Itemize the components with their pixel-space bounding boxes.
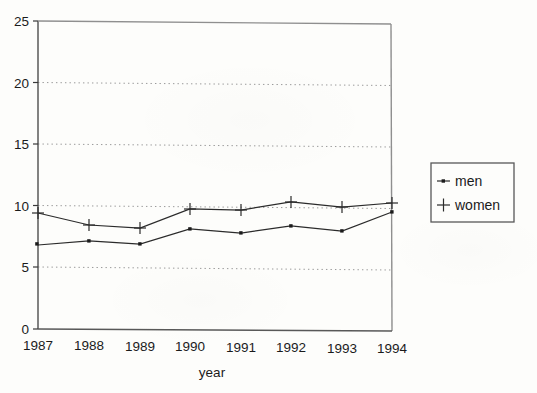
y-tick-label-0: 0	[21, 322, 29, 337]
x-tick-label-1989: 1989	[125, 339, 155, 354]
y-axis-tick-labels: 25 20 15 10 5 0	[14, 14, 29, 337]
legend-label-men: men	[455, 173, 482, 189]
marker-men-1988	[87, 239, 90, 242]
marker-men-1993	[340, 229, 343, 232]
x-axis-tick-labels: 1987 1988 1989 1990 1991 1992 1993 1994	[23, 338, 408, 356]
marker-men-1987	[35, 242, 38, 245]
marker-men-1990	[188, 227, 191, 230]
legend-box	[431, 163, 514, 222]
series-men-line	[38, 212, 392, 245]
series-women-markers	[32, 196, 398, 234]
marker-men-1989	[138, 242, 141, 245]
marker-men-1992	[289, 224, 292, 227]
gridlines	[38, 83, 391, 271]
plot-right-border	[391, 24, 392, 331]
line-chart: 25 20 15 10 5 0 1987 1988 1989 1990 1991…	[0, 0, 537, 393]
y-tick-label-10: 10	[14, 199, 29, 214]
series-women-line	[38, 202, 392, 228]
legend-label-women: women	[454, 197, 500, 213]
marker-women-1994	[386, 197, 398, 209]
x-tick-label-1991: 1991	[226, 340, 256, 355]
x-tick-label-1988: 1988	[74, 338, 104, 353]
gridline-15	[38, 144, 391, 147]
marker-men-1994	[390, 210, 393, 213]
x-tick-label-1990: 1990	[175, 339, 205, 354]
marker-women-1987	[32, 207, 44, 219]
legend: men women	[431, 163, 514, 222]
marker-women-1991	[235, 204, 247, 216]
marker-women-1989	[134, 222, 146, 234]
x-axis-line	[38, 329, 392, 331]
series-women	[32, 196, 398, 234]
y-tick-label-15: 15	[14, 137, 29, 152]
marker-women-1988	[83, 219, 95, 231]
marker-women-1992	[285, 196, 297, 208]
y-tick-label-25: 25	[14, 14, 29, 29]
chart-page: 25 20 15 10 5 0 1987 1988 1989 1990 1991…	[0, 0, 537, 393]
marker-women-1993	[336, 201, 348, 213]
x-tick-label-1993: 1993	[327, 341, 357, 356]
x-tick-label-1992: 1992	[276, 340, 306, 355]
plot-frame	[38, 21, 392, 331]
x-tick-label-1987: 1987	[23, 338, 53, 353]
y-tick-label-20: 20	[14, 76, 29, 91]
x-axis-title: year	[199, 365, 226, 380]
gridline-20	[38, 83, 391, 86]
marker-women-1990	[184, 203, 196, 215]
gridline-5	[38, 267, 391, 270]
plot-top-border	[38, 21, 391, 24]
marker-men-1991	[239, 231, 242, 234]
x-tick-label-1994: 1994	[377, 341, 408, 356]
y-tick-label-5: 5	[21, 260, 29, 275]
